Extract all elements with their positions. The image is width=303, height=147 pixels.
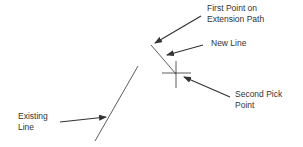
cad-extension-diagram: First Point on Extension Path New Line S… bbox=[0, 0, 303, 147]
label-first-point: First Point on Extension Path bbox=[207, 3, 264, 25]
crosshair-cursor-icon bbox=[162, 61, 191, 88]
arrow-existing-line bbox=[60, 117, 106, 122]
label-existing-line: Existing Line bbox=[18, 111, 48, 133]
arrow-first-point bbox=[155, 16, 201, 43]
label-first-point-line2: Extension Path bbox=[207, 14, 264, 25]
new-line bbox=[151, 45, 176, 74]
arrow-second-pick bbox=[184, 77, 230, 97]
label-second-pick-point: Second Pick Point bbox=[235, 89, 282, 111]
arrow-new-line bbox=[167, 45, 203, 55]
label-new-line: New Line bbox=[211, 38, 246, 49]
label-existing-line1: Existing bbox=[18, 111, 48, 122]
label-existing-line2: Line bbox=[18, 122, 48, 133]
label-first-point-line1: First Point on bbox=[207, 3, 264, 14]
existing-line bbox=[95, 66, 138, 141]
label-second-pick-line2: Point bbox=[235, 100, 282, 111]
label-second-pick-line1: Second Pick bbox=[235, 89, 282, 100]
